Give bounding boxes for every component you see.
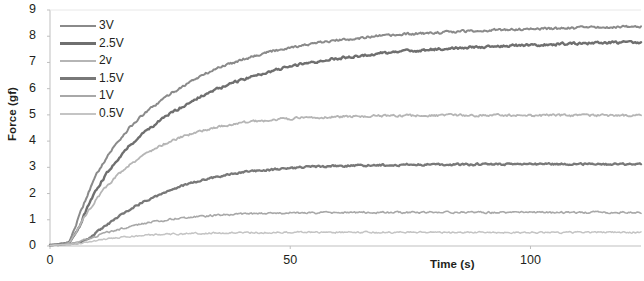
plot-area (0, 0, 644, 281)
legend-label-1.5V: 1.5V (99, 71, 124, 85)
legend-label-2v: 2v (99, 53, 112, 67)
legend-swatch-2.5V (60, 42, 96, 44)
legend-swatch-1.5V (60, 77, 96, 79)
legend-label-0.5V: 0.5V (99, 106, 124, 120)
force-vs-time-chart: Force (gf) Time (s) 9876543210 050100 3V… (0, 0, 644, 281)
legend-swatch-2v (60, 60, 96, 62)
series-1V (50, 211, 641, 245)
legend-swatch-1V (60, 95, 96, 97)
legend-label-3V: 3V (99, 18, 114, 32)
legend-label-1V: 1V (99, 88, 114, 102)
legend-swatch-3V (60, 25, 96, 27)
series-2.5V (50, 41, 641, 245)
series-2v (50, 114, 641, 245)
legend-label-2.5V: 2.5V (99, 36, 124, 50)
series-0.5V (50, 231, 641, 245)
legend-swatch-0.5V (60, 113, 96, 115)
